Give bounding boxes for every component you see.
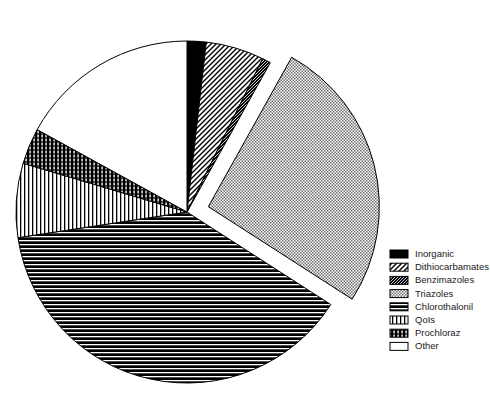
legend-swatch-icon bbox=[390, 342, 408, 350]
legend-swatch-icon bbox=[390, 290, 408, 298]
legend-swatch-icon bbox=[390, 329, 408, 337]
legend-swatch-icon bbox=[390, 316, 408, 324]
legend-label: Other bbox=[415, 340, 439, 351]
legend-label: Dithiocarbamates bbox=[415, 261, 489, 272]
legend-label: Chlorothalonil bbox=[415, 301, 473, 312]
legend-label: Inorganic bbox=[415, 248, 454, 259]
legend-swatch-icon bbox=[390, 250, 408, 258]
legend-swatch-icon bbox=[390, 276, 408, 284]
legend-item-chlorothalonil[interactable]: Chlorothalonil bbox=[390, 301, 473, 312]
chart-canvas: Inorganic: 1.8%Dithiocarbamates: 5.5%Ben… bbox=[0, 0, 490, 399]
legend-label: Triazoles bbox=[415, 288, 453, 299]
legend-item-triazoles[interactable]: Triazoles bbox=[390, 288, 453, 299]
legend-label: QoIs bbox=[415, 314, 435, 325]
legend-label: Prochloraz bbox=[415, 327, 461, 338]
legend-swatch-icon bbox=[390, 263, 408, 271]
legend-item-inorganic[interactable]: Inorganic bbox=[390, 248, 454, 259]
legend-label: Benzimazoles bbox=[415, 274, 474, 285]
legend-swatch-icon bbox=[390, 303, 408, 311]
legend-item-dithiocarbamates[interactable]: Dithiocarbamates bbox=[390, 261, 489, 272]
legend-item-other[interactable]: Other bbox=[390, 340, 439, 351]
pie-chart-figure: Inorganic: 1.8%Dithiocarbamates: 5.5%Ben… bbox=[0, 0, 490, 399]
legend-item-benzimazoles[interactable]: Benzimazoles bbox=[390, 274, 474, 285]
legend-item-prochloraz[interactable]: Prochloraz bbox=[390, 327, 461, 338]
